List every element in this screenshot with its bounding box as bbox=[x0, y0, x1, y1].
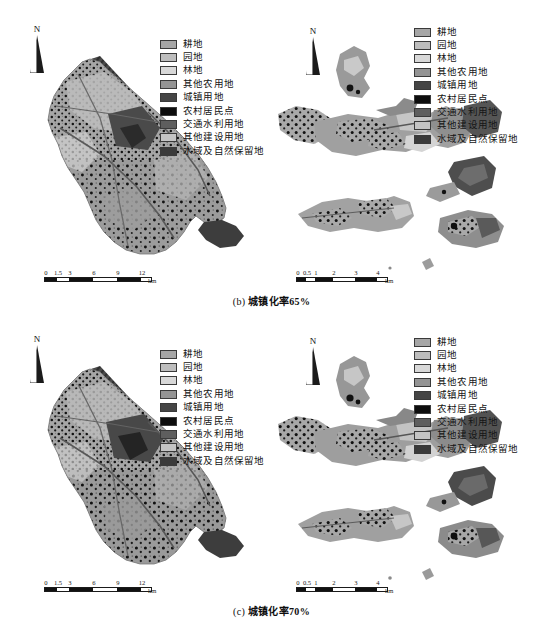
scalebar-tick: 2 bbox=[332, 578, 335, 587]
scalebar-tick: 0.5 bbox=[303, 268, 311, 277]
legend-item-label: 其他建设用地 bbox=[183, 442, 244, 453]
panel-c-right-legend: 耕地 园地 林地 其他农用地 城镇用地 农村居民点 交通水利用地 其他建设用地 … bbox=[414, 336, 519, 456]
legend-swatch bbox=[160, 443, 177, 452]
legend-swatch bbox=[160, 66, 177, 75]
legend-swatch bbox=[414, 54, 431, 63]
legend-item-label: 城镇用地 bbox=[183, 402, 224, 413]
legend-swatch bbox=[414, 108, 431, 117]
scalebar-tick: 0 bbox=[44, 578, 47, 587]
legend-swatch bbox=[414, 338, 431, 347]
scalebar-tick: 12 bbox=[139, 578, 146, 587]
legend-item: 耕地 bbox=[160, 38, 265, 50]
legend-item-label: 其他农用地 bbox=[437, 67, 488, 78]
panel-b: N 耕地 园地 林地 其他农用地 城镇用地 农村居民点 交通水利用地 其他建设用… bbox=[0, 10, 543, 315]
legend-swatch bbox=[160, 417, 177, 426]
legend-item: 农村居民点 bbox=[160, 105, 265, 117]
scalebar-unit: km bbox=[148, 587, 156, 595]
legend-item: 林地 bbox=[160, 375, 265, 387]
legend-item-label: 水域及自然保留地 bbox=[437, 444, 519, 455]
north-arrow-icon: N bbox=[24, 334, 50, 386]
legend-item: 园地 bbox=[160, 51, 265, 63]
legend-item-label: 交通水利用地 bbox=[437, 417, 498, 428]
legend-swatch bbox=[160, 120, 177, 129]
legend-swatch bbox=[160, 363, 177, 372]
panel-b-caption-text: 城镇化率65% bbox=[248, 296, 310, 307]
panel-c-island-map-block: N 耕地 园地 林地 其他农用地 城镇用地 农村居民点 交通水利用地 其他建设用… bbox=[278, 320, 540, 592]
legend-item: 交通水利用地 bbox=[160, 118, 265, 130]
legend-swatch bbox=[414, 81, 431, 90]
scalebar-tick: 3 bbox=[68, 578, 71, 587]
legend-swatch bbox=[414, 28, 431, 37]
legend-item: 林地 bbox=[160, 65, 265, 77]
scalebar-tick: 0 bbox=[44, 268, 47, 277]
legend-item: 其他农用地 bbox=[414, 376, 519, 388]
scalebar-tick: 6 bbox=[92, 268, 95, 277]
legend-item: 其他建设用地 bbox=[414, 430, 519, 442]
legend-swatch bbox=[414, 431, 431, 440]
legend-swatch bbox=[160, 53, 177, 62]
scalebar-tick: 3 bbox=[354, 268, 357, 277]
legend-swatch bbox=[414, 391, 431, 400]
legend-swatch bbox=[414, 68, 431, 77]
scalebar-tick: 9 bbox=[116, 578, 119, 587]
legend-item-label: 耕地 bbox=[183, 349, 203, 360]
legend-item-label: 其他农用地 bbox=[437, 377, 488, 388]
legend-swatch bbox=[160, 147, 177, 156]
legend-swatch bbox=[160, 376, 177, 385]
legend-item-label: 水域及自然保留地 bbox=[437, 134, 519, 145]
scalebar-left: 0 1.5 3 6 9 12 km bbox=[44, 578, 152, 592]
legend-item: 水域及自然保留地 bbox=[160, 455, 265, 467]
panel-b-island-map-block: N 耕地 园地 林地 其他农用地 城镇用地 农村居民点 交通水利用地 其他建设用… bbox=[278, 10, 540, 282]
legend-swatch bbox=[160, 457, 177, 466]
legend-item: 耕地 bbox=[414, 336, 519, 348]
panel-c-mainland-map-block: N 耕地 园地 林地 其他农用地 城镇用地 农村居民点 交通水利用地 其他建设用… bbox=[8, 320, 278, 592]
legend-item-label: 耕地 bbox=[437, 337, 457, 348]
scalebar-bar: km bbox=[44, 587, 152, 592]
panel-b-caption: (b) 城镇化率65% bbox=[0, 295, 543, 308]
scalebar-tick: 4 bbox=[376, 578, 379, 587]
legend-item-label: 园地 bbox=[437, 40, 457, 51]
legend-item: 城镇用地 bbox=[414, 80, 519, 92]
legend-item-label: 城镇用地 bbox=[437, 80, 478, 91]
scalebar-tick: 9 bbox=[116, 268, 119, 277]
legend-item-label: 交通水利用地 bbox=[183, 429, 244, 440]
north-arrow-label: N bbox=[310, 336, 317, 346]
legend-swatch bbox=[414, 378, 431, 387]
legend-item: 交通水利用地 bbox=[414, 416, 519, 428]
north-arrow-label: N bbox=[310, 26, 317, 36]
legend-item: 耕地 bbox=[160, 348, 265, 360]
panel-b-mainland-map-block: N 耕地 园地 林地 其他农用地 城镇用地 农村居民点 交通水利用地 其他建设用… bbox=[8, 10, 278, 282]
legend-swatch bbox=[160, 107, 177, 116]
legend-item-label: 农村居民点 bbox=[183, 106, 234, 117]
legend-item-label: 水域及自然保留地 bbox=[183, 146, 265, 157]
legend-item: 水域及自然保留地 bbox=[414, 443, 519, 455]
scalebar-ticks: 0 0.5 1 2 3 4 bbox=[296, 268, 404, 277]
scalebar-ticks: 0 1.5 3 6 9 12 bbox=[44, 268, 152, 277]
scalebar-tick: 3 bbox=[68, 268, 71, 277]
scalebar-tick: 0.5 bbox=[303, 578, 311, 587]
legend-swatch bbox=[414, 351, 431, 360]
legend-swatch bbox=[160, 390, 177, 399]
north-arrow-glyph bbox=[306, 347, 320, 385]
legend-item-label: 城镇用地 bbox=[437, 390, 478, 401]
legend-item: 城镇用地 bbox=[160, 92, 265, 104]
legend-swatch bbox=[160, 40, 177, 49]
north-arrow-glyph bbox=[30, 345, 44, 383]
legend-swatch bbox=[160, 80, 177, 89]
legend-item-label: 其他农用地 bbox=[183, 79, 234, 90]
legend-swatch bbox=[414, 364, 431, 373]
legend-item-label: 园地 bbox=[183, 362, 203, 373]
scalebar-right: 0 0.5 1 2 3 4 km bbox=[296, 268, 404, 282]
legend-swatch bbox=[160, 430, 177, 439]
scalebar-unit: km bbox=[385, 277, 393, 285]
cut-off-header-text-value: · · · ·· · ·· · · ·· ·· · ··· · ·· · ·· … bbox=[377, 0, 543, 4]
legend-item-label: 其他建设用地 bbox=[183, 132, 244, 143]
legend-item: 城镇用地 bbox=[414, 390, 519, 402]
legend-item-label: 林地 bbox=[183, 375, 203, 386]
scalebar-tick: 2 bbox=[332, 268, 335, 277]
legend-swatch bbox=[160, 133, 177, 142]
panel-b-left-legend: 耕地 园地 林地 其他农用地 城镇用地 农村居民点 交通水利用地 其他建设用地 … bbox=[160, 38, 265, 158]
legend-item: 交通水利用地 bbox=[160, 428, 265, 440]
legend-swatch bbox=[414, 121, 431, 130]
scalebar-tick: 1 bbox=[314, 268, 317, 277]
